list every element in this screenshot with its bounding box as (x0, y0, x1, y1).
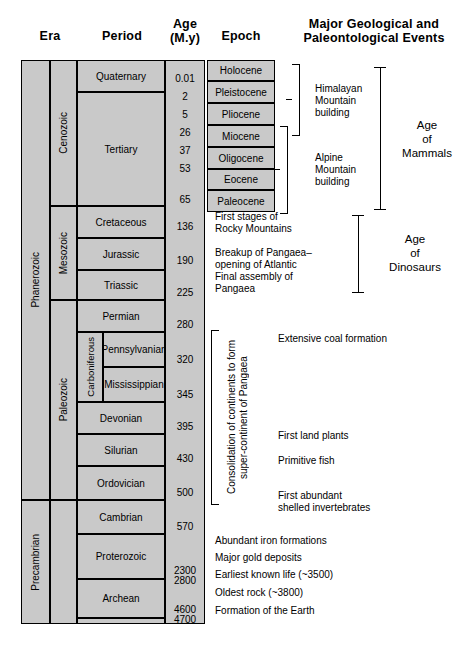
period-archean-label: Archean (102, 593, 139, 604)
eon-precambrian: Precambrian (21, 500, 50, 624)
age-value: 190 (165, 256, 205, 267)
period-jurassic-label: Jurassic (103, 249, 140, 260)
age-value: 500 (165, 488, 205, 499)
header-age-line2: (M.y) (163, 32, 207, 46)
period-cretaceous: Cretaceous (77, 206, 165, 238)
geologic-time-scale-figure: Era Period Age (M.y) Epoch Major Geologi… (0, 0, 463, 645)
header-epoch: Epoch (206, 30, 276, 44)
period-permian-label: Permian (102, 311, 139, 322)
age-value: 430 (165, 454, 205, 465)
header-events: Major Geological and Paleontological Eve… (288, 18, 460, 45)
period-pre-archean-blank (77, 618, 165, 624)
period-mississippian: Mississippian (103, 367, 165, 402)
age-value: 4700 (165, 615, 205, 626)
period-devonian: Devonian (77, 402, 165, 434)
event-primitive-fish: Primitive fish (278, 455, 428, 467)
period-jurassic: Jurassic (77, 238, 165, 270)
age-value: 345 (165, 390, 205, 401)
header-age: Age (M.y) (163, 18, 207, 45)
event-gold-deposits: Major gold deposits (215, 552, 395, 564)
period-permian: Permian (77, 300, 165, 332)
period-pennsylvanian: Pennsylvanian (103, 332, 165, 367)
header-era-label: Era (40, 29, 61, 43)
event-earth-formation: Formation of the Earth (215, 605, 405, 617)
age-value: 0.01 (165, 74, 205, 85)
period-carboniferous-label: Carboniferous (85, 337, 96, 397)
event-shelled-invertebrates: First abundant shelled invertebrates (278, 490, 438, 514)
period-ordovician: Ordovician (77, 466, 165, 500)
event-first-land-plants: First land plants (278, 430, 428, 442)
period-proterozoic: Proterozoic (77, 534, 165, 579)
period-archean: Archean (77, 579, 165, 618)
epoch-pleistocene: Pleistocene (207, 81, 275, 103)
header-age-line1: Age (163, 18, 207, 32)
age-value: 26 (165, 128, 205, 139)
epoch-paleocene-label: Paleocene (217, 196, 264, 207)
era-precambrian-blank (50, 500, 77, 624)
period-tertiary: Tertiary (77, 92, 165, 206)
age-value: 65 (165, 195, 205, 206)
epoch-holocene-label: Holocene (220, 65, 262, 76)
epoch-eocene-label: Eocene (224, 174, 258, 185)
period-triassic: Triassic (77, 270, 165, 300)
period-silurian: Silurian (77, 434, 165, 466)
period-triassic-label: Triassic (104, 280, 138, 291)
eon-phanerozoic: Phanerozoic (21, 60, 50, 500)
epoch-eocene: Eocene (207, 169, 275, 190)
event-oldest-rock: Oldest rock (~3800) (215, 587, 405, 599)
period-cambrian: Cambrian (77, 500, 165, 534)
epoch-miocene: Miocene (207, 125, 275, 147)
header-period: Period (78, 30, 166, 44)
age-value: 5 (165, 110, 205, 121)
epoch-pliocene: Pliocene (207, 103, 275, 125)
age-value: 2800 (165, 576, 205, 587)
period-mississippian-label: Mississippian (104, 379, 163, 390)
period-tertiary-label: Tertiary (105, 144, 138, 155)
bracket-himalayan (290, 64, 302, 136)
period-devonian-label: Devonian (100, 413, 142, 424)
era-paleozoic-label: Paleozoic (58, 378, 69, 421)
period-quaternary-label: Quaternary (96, 71, 146, 82)
period-cretaceous-label: Cretaceous (95, 217, 146, 228)
bracket-consolidation (211, 330, 221, 505)
bracket-alpine (278, 126, 290, 214)
eon-precambrian-label: Precambrian (30, 534, 41, 591)
period-proterozoic-label: Proterozoic (96, 551, 147, 562)
age-value: 570 (165, 522, 205, 533)
event-iron-formations: Abundant iron formations (215, 535, 395, 547)
age-value: 37 (165, 146, 205, 157)
epoch-oligocene-label: Oligocene (218, 153, 263, 164)
epoch-pleistocene-label: Pleistocene (215, 87, 267, 98)
age-value: 320 (165, 355, 205, 366)
period-carboniferous: Carboniferous (77, 332, 103, 402)
age-value: 280 (165, 320, 205, 331)
period-silurian-label: Silurian (104, 445, 137, 456)
era-cenozoic-label: Cenozoic (58, 112, 69, 154)
age-value: 395 (165, 422, 205, 433)
event-coal-formation: Extensive coal formation (278, 333, 448, 345)
era-paleozoic: Paleozoic (50, 300, 77, 500)
period-pennsylvanian-label: Pennsylvanian (103, 344, 165, 355)
period-ordovician-label: Ordovician (97, 478, 145, 489)
age-value: 53 (165, 164, 205, 175)
period-quaternary: Quaternary (77, 60, 165, 92)
header-era: Era (22, 30, 78, 44)
label-age-of-dinosaurs: Age of Dinosaurs (372, 232, 458, 274)
header-events-line1: Major Geological and (288, 18, 460, 32)
epoch-oligocene: Oligocene (207, 147, 275, 169)
era-mesozoic: Mesozoic (50, 206, 77, 300)
event-pangaea-assembly: Final assembly of Pangaea (215, 271, 355, 295)
period-cambrian-label: Cambrian (99, 512, 142, 523)
label-age-of-mammals: Age of Mammals (392, 118, 462, 160)
era-cenozoic: Cenozoic (50, 60, 77, 206)
event-earliest-life: Earliest known life (~3500) (215, 569, 405, 581)
event-pangaea-breakup: Breakup of Pangaea– opening of Atlantic (215, 247, 355, 271)
ibar-age-of-mammals (372, 67, 388, 210)
event-consolidation: Consolidation of continents to form supe… (226, 330, 252, 505)
age-value: 225 (165, 288, 205, 299)
epoch-miocene-label: Miocene (222, 131, 260, 142)
header-period-label: Period (102, 29, 142, 43)
age-value: 2 (165, 92, 205, 103)
header-epoch-label: Epoch (221, 29, 260, 43)
header-events-line2: Paleontological Events (288, 32, 460, 46)
